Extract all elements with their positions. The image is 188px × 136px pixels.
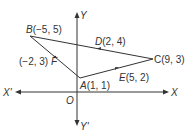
midpoint-d-label: D(2, 4) — [95, 36, 126, 47]
x-axis-left-arrow-icon — [15, 90, 21, 95]
midpoint-f-label: (−2, 3) F — [19, 56, 58, 67]
midpoint-d-arrow-icon — [97, 47, 101, 50]
midpoint-e-label: E(5, 2) — [119, 72, 149, 83]
y-axis-up-arrow-icon — [75, 12, 80, 18]
origin-label: O — [66, 95, 74, 106]
x-positive-label: X — [170, 87, 178, 98]
vertex-c-label: C(9, 3) — [154, 54, 185, 65]
y-axis-down-arrow-icon — [75, 120, 80, 126]
vertex-b-label: B(−5, 5) — [26, 24, 62, 35]
x-negative-label: X' — [2, 87, 13, 98]
vertex-a-label: A(1, 1) — [79, 80, 110, 91]
y-positive-label: Y — [80, 10, 88, 21]
x-axis-right-arrow-icon — [163, 90, 169, 95]
triangle-diagram: X' X Y Y' O B(−5, 5) C(9, 3) A(1, 1) D(2… — [0, 0, 188, 136]
y-negative-label: Y' — [80, 121, 90, 132]
